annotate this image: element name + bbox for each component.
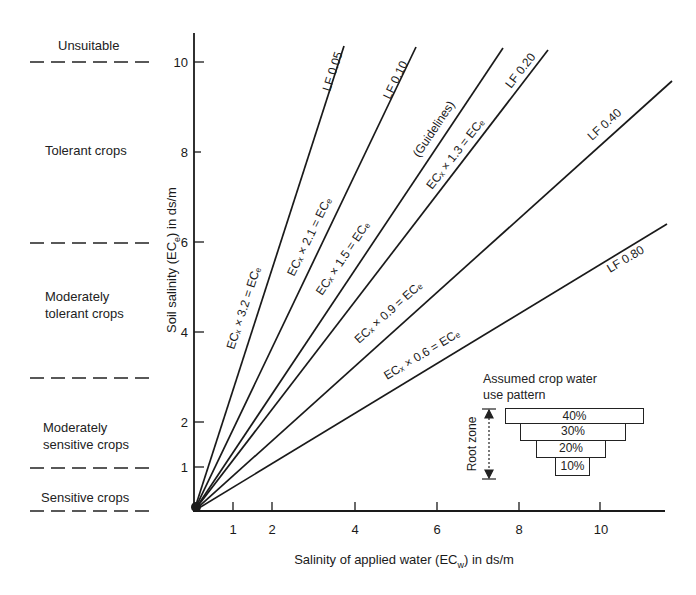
zone-moderately-tolerant: Moderately tolerant crops — [45, 288, 124, 322]
zone-moderately-sensitive: Moderately sensitive crops — [43, 419, 129, 453]
x-tick-2: 2 — [268, 522, 275, 537]
zone-moderately-tolerant-line1: Moderately — [45, 288, 124, 305]
x-tick-labels: 1 2 4 6 8 10 — [229, 522, 608, 537]
x-tick-8: 8 — [515, 522, 522, 537]
label-lf-080: LF 0.80 — [604, 242, 646, 275]
x-axis-title: Salinity of applied water (ECw) in ds/m — [294, 552, 514, 570]
inset-title: Assumed crop water use pattern — [483, 371, 597, 403]
line-lf-080 — [194, 224, 667, 511]
line-lf-010 — [194, 47, 416, 511]
inset-layer-40: 40% — [505, 408, 644, 424]
origin-marker — [191, 502, 201, 512]
y-axis-title: Soil salinity (ECe) in ds/m — [164, 187, 182, 333]
x-tick-1: 1 — [229, 522, 236, 537]
y-tick-4: 4 — [181, 325, 188, 340]
x-tick-10: 10 — [594, 522, 608, 537]
root-zone-arrow — [482, 409, 496, 479]
x-tick-6: 6 — [433, 522, 440, 537]
x-tick-4: 4 — [351, 522, 358, 537]
inset-layer-20: 20% — [536, 441, 606, 458]
label-lf-040: LF 0.40 — [585, 105, 625, 143]
y-tick-2: 2 — [181, 415, 188, 430]
zone-moderately-sensitive-line2: sensitive crops — [43, 436, 129, 453]
y-tick-8: 8 — [181, 145, 188, 160]
zone-tolerant: Tolerant crops — [45, 142, 127, 159]
inset-layer-10: 10% — [555, 458, 590, 476]
root-zone-label: Root zone — [465, 416, 479, 471]
y-tick-1: 1 — [181, 460, 188, 475]
zone-sensitive: Sensitive crops — [41, 489, 129, 506]
zone-moderately-tolerant-line2: tolerant crops — [45, 305, 124, 322]
zone-unsuitable: Unsuitable — [58, 37, 119, 54]
label-eq-0-6: ECₓ × 0.6 = ECₑ — [381, 326, 462, 382]
line-guidelines — [194, 48, 503, 511]
label-lf-005: LF 0.05 — [320, 50, 346, 93]
zone-moderately-sensitive-line1: Moderately — [43, 419, 129, 436]
salinity-chart: 10 8 6 4 2 1 1 2 4 6 8 10 Salinity of ap… — [0, 0, 696, 595]
inset-layer-30: 30% — [520, 424, 626, 441]
label-eq-3-2: ECₓ × 3.2 = ECₑ — [224, 265, 264, 351]
inset-title-line2: use pattern — [483, 387, 597, 403]
y-tick-10: 10 — [174, 55, 188, 70]
inset-title-line1: Assumed crop water — [483, 371, 597, 387]
label-lf-010: LF 0.10 — [380, 58, 411, 101]
